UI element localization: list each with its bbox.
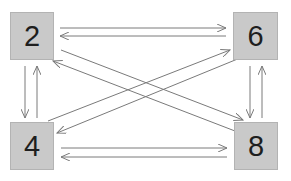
- node-2: 2: [10, 12, 54, 60]
- node-4: 4: [10, 122, 54, 170]
- node-2-label: 2: [24, 20, 40, 53]
- node-8-label: 8: [248, 130, 264, 163]
- node-4-label: 4: [24, 130, 40, 163]
- node-6-label: 6: [247, 20, 263, 53]
- arrow-2-to-8: [61, 50, 243, 120]
- arrow-6-to-4: [57, 58, 240, 133]
- node-6: 6: [233, 12, 278, 60]
- arrow-4-to-6: [48, 50, 230, 121]
- node-8: 8: [234, 122, 278, 170]
